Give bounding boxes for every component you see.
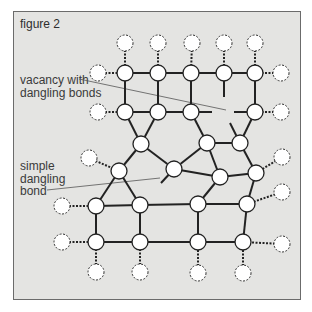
dashed-atom [190, 265, 206, 281]
atom-e4 [239, 196, 255, 212]
atom-d2 [166, 161, 182, 177]
atom-a2 [150, 65, 166, 81]
dashed-atom [90, 104, 106, 120]
solid-bonds [96, 73, 256, 242]
atom-f1 [88, 234, 104, 250]
atom-b3 [183, 104, 199, 120]
leader-line [47, 178, 160, 190]
dashed-atom [274, 184, 290, 200]
dashed-atom [54, 234, 70, 250]
atom-a4 [216, 65, 232, 81]
atom-b2 [150, 104, 166, 120]
atom-e2 [132, 197, 148, 213]
atom-c1 [133, 136, 149, 152]
dashed-atom [235, 265, 251, 281]
atom-f3 [190, 234, 206, 250]
atom-a5 [247, 65, 263, 81]
atom-c2 [199, 135, 215, 151]
lattice-diagram [0, 0, 312, 312]
dashed-atom [216, 35, 232, 51]
dashed-atom [81, 150, 97, 166]
atom-e1 [88, 198, 104, 214]
dashed-atom [274, 236, 290, 252]
atom-b5 [247, 104, 263, 120]
dashed-atom [90, 65, 106, 81]
dashed-atom [274, 149, 290, 165]
dashed-atom [273, 65, 289, 81]
dashed-atom [247, 35, 263, 51]
atom-b1 [117, 104, 133, 120]
dashed-atom [150, 35, 166, 51]
atom-f4 [235, 234, 251, 250]
atom-a1 [117, 65, 133, 81]
atom-e3 [190, 196, 206, 212]
atom-f2 [132, 234, 148, 250]
atom-d4 [248, 165, 264, 181]
dashed-atom [54, 198, 70, 214]
dashed-atom [184, 35, 200, 51]
atom-d3 [212, 169, 228, 185]
dashed-atom [88, 264, 104, 280]
atom-c3 [232, 135, 248, 151]
dashed-atom [273, 104, 289, 120]
atoms [88, 65, 264, 250]
bond [140, 204, 198, 205]
dashed-atom [132, 264, 148, 280]
atom-a3 [183, 65, 199, 81]
atom-d1 [111, 163, 127, 179]
dashed-atom [117, 35, 133, 51]
